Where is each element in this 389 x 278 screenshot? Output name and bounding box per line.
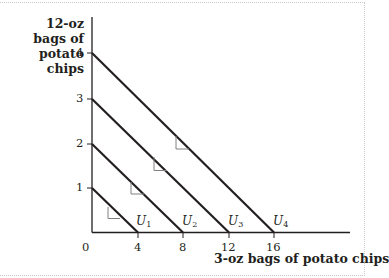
curve-label-u1: U1 [136,214,151,229]
indifference-curve-u1 [92,188,138,233]
x-axis-label: 3-oz bags of potato chips [214,251,389,266]
y-axis-label-line2: potato chips [14,46,84,76]
y-tick-label-2: 2 [76,136,83,150]
y-axis-label-line1: 12-oz bags of [14,16,84,46]
y-tick-label-3: 3 [76,91,83,105]
y-tick-label-1: 1 [76,180,83,194]
indifference-curve-u4 [92,53,274,233]
x-tick-label-4: 4 [134,240,141,254]
curve-label-u4: U4 [273,214,288,229]
curve-label-u2: U2 [182,214,197,229]
slope-marker-u3 [154,157,167,171]
origin-label: 0 [82,240,89,254]
y-axis-label: 12-oz bags of potato chips [14,16,84,76]
y-tick-label-4: 4 [76,45,83,59]
curve-label-u3: U3 [228,214,243,229]
x-tick-label-8: 8 [179,240,186,254]
